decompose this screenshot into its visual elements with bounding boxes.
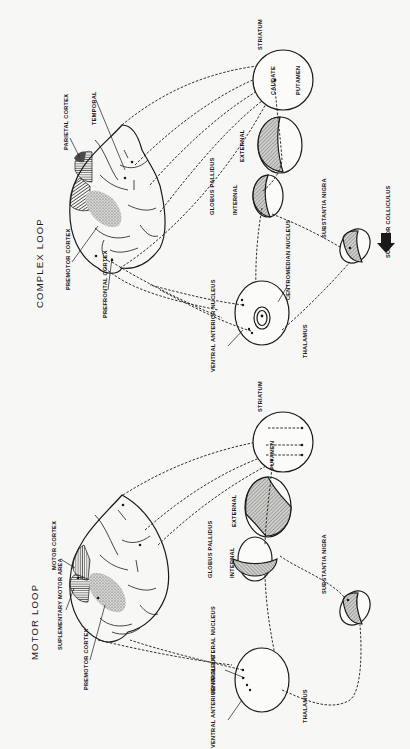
complex-brain-cortex (70, 125, 165, 273)
label-external-complex: EXTERNAL (239, 129, 245, 162)
complex-thalamus: THALAMUS CENTROMEDIAN NUCLEUS VENTRAL AN… (210, 220, 308, 372)
label-premotor-cortex-motor: PREMOTOR CORTEX (83, 628, 89, 690)
projection-cortex-to-striatum (122, 65, 265, 125)
label-putamen-complex: PUTAMEN (295, 66, 301, 95)
motor-gp-external: EXTERNAL (231, 477, 291, 537)
label-thalamus-complex: THALAMUS (302, 324, 308, 358)
label-thalamus-motor: THALAMUS (302, 689, 308, 723)
motor-loop-title: MOTOR LOOP (29, 584, 40, 660)
label-ventral-anterior-complex: VENTRAL ANTERIOR NUCLEUS (210, 279, 216, 372)
label-striatum-complex: STRIATUM (257, 19, 263, 50)
motor-substantia-nigra: SUBSTANTIA NIGRA (321, 534, 376, 630)
label-premotor-cortex-complex: PREMOTOR CORTEX (65, 228, 71, 290)
label-ventral-anterior-motor: VENTRAL ANTERIOR NUCLEUS (210, 655, 216, 748)
label-supplementary-motor-area: SUPLEMENTARY MOTOR AREA (57, 558, 63, 650)
label-superior-colliculus: SUPERIOR COLLICULUS (385, 185, 391, 258)
projection-motor-cortex-to-striatum (123, 440, 268, 495)
label-external-motor: EXTERNAL (231, 494, 237, 527)
label-internal-complex: INTERNAL (232, 184, 238, 215)
label-temporal: TEMPORAL (91, 91, 97, 125)
complex-gp-external: EXTERNAL (239, 117, 302, 173)
label-substantia-nigra-motor: SUBSTANTIA NIGRA (321, 534, 327, 594)
projection-thalamus-to-motor-cortex (130, 640, 243, 670)
label-parietal-cortex: PARIETAL CORTEX (63, 94, 69, 150)
label-globus-pallidus-complex: GLOBUS PALLIDUS (209, 157, 215, 215)
complex-substantia-nigra: SUBSTANTIA NIGRA SUPERIOR COLLICULUS (321, 178, 395, 268)
motor-striatum: STRIATUM PUTAMEN (253, 381, 313, 472)
complex-loop-title: COMPLEX LOOP (34, 218, 45, 308)
projection-thalamus-to-cortex (150, 285, 243, 305)
basal-ganglia-loops-figure: COMPLEX LOOP PARIETAL CORTEX TEMPORAL PR… (0, 0, 410, 749)
label-substantia-nigra-complex: SUBSTANTIA NIGRA (321, 178, 327, 238)
label-globus-pallidus-motor: GLOBUS PALLIDUS (207, 520, 213, 578)
label-prefrontal-cortex: PREFRONTAL CORTEX (102, 250, 108, 318)
label-striatum-motor: STRIATUM (257, 381, 263, 412)
complex-striatum: STRIATUM CAUDATE PUTAMEN (253, 19, 313, 110)
motor-loop-panel: MOTOR LOOP MOTOR CORTEX SUPLEMENTARY MOT… (29, 381, 376, 748)
label-internal-motor: INTERNAL (229, 547, 235, 578)
complex-loop-panel: COMPLEX LOOP PARIETAL CORTEX TEMPORAL PR… (34, 19, 395, 372)
motor-thalamus: THALAMUS VENTRAL LATERAL NUCLEUS VENTRAL… (210, 606, 308, 748)
motor-brain-cortex (70, 495, 169, 642)
